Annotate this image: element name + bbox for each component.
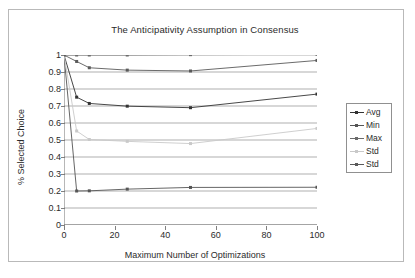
x-tick-label: 40 xyxy=(160,230,170,240)
legend-marker-icon xyxy=(350,134,364,143)
data-point xyxy=(189,69,192,72)
x-tick-label: 0 xyxy=(61,230,66,240)
legend-marker-icon xyxy=(350,160,364,169)
series-min-1 xyxy=(64,55,317,193)
chart-legend: AvgMinMaxStdStd xyxy=(346,103,392,173)
data-point xyxy=(75,60,78,63)
legend-label: Avg xyxy=(366,108,381,117)
x-tick-label: 80 xyxy=(261,230,271,240)
data-point xyxy=(316,127,318,130)
chart-title: The Anticipativity Assumption in Consens… xyxy=(60,24,350,35)
y-tick-label: 0.3 xyxy=(48,169,61,179)
y-tick-label: 0.7 xyxy=(48,101,61,111)
data-point xyxy=(126,105,129,108)
x-tick-mark xyxy=(317,226,318,230)
x-axis-title: Maximum Number of Optimizations xyxy=(60,250,330,260)
legend-marker-icon xyxy=(350,121,364,130)
data-point xyxy=(126,140,129,143)
series-std-4 xyxy=(64,55,317,72)
series-line xyxy=(64,55,317,71)
legend-item-max-2[interactable]: Max xyxy=(347,132,391,145)
data-point xyxy=(316,55,318,56)
y-tick-label: 0.8 xyxy=(48,84,61,94)
data-point xyxy=(316,59,318,62)
chart-page: The Anticipativity Assumption in Consens… xyxy=(0,0,415,278)
data-point xyxy=(75,190,78,193)
data-point xyxy=(189,186,192,189)
data-point xyxy=(88,55,91,57)
y-tick-label: 0.4 xyxy=(48,152,61,162)
data-point xyxy=(64,55,66,57)
plot-svg xyxy=(64,55,317,225)
legend-label: Std xyxy=(366,160,379,169)
legend-marker-icon xyxy=(350,108,364,117)
y-tick-label: 0.5 xyxy=(48,135,61,145)
legend-item-std-4[interactable]: Std xyxy=(347,158,391,171)
plot-area xyxy=(64,55,317,225)
data-point xyxy=(88,102,91,105)
y-tick-label: 0.1 xyxy=(48,203,61,213)
legend-item-avg-0[interactable]: Avg xyxy=(347,106,391,119)
legend-label: Std xyxy=(366,147,379,156)
data-point xyxy=(189,142,192,145)
series-line xyxy=(64,55,317,108)
x-tick-mark xyxy=(165,226,166,230)
y-tick-label: 0.2 xyxy=(48,186,61,196)
legend-item-std-3[interactable]: Std xyxy=(347,145,391,158)
data-point xyxy=(126,69,129,72)
x-tick-mark xyxy=(115,226,116,230)
data-point xyxy=(316,93,318,96)
y-tick-label: 0.9 xyxy=(48,67,61,77)
data-point xyxy=(88,138,91,141)
x-tick-label: 100 xyxy=(309,230,324,240)
data-point xyxy=(75,129,78,132)
data-point xyxy=(126,188,129,191)
x-tick-mark xyxy=(64,226,65,230)
data-point xyxy=(75,96,78,99)
series-avg-0 xyxy=(64,55,317,109)
x-tick-mark xyxy=(266,226,267,230)
x-tick-label: 60 xyxy=(211,230,221,240)
legend-item-min-1[interactable]: Min xyxy=(347,119,391,132)
data-point xyxy=(88,189,91,192)
y-axis-tick-labels: 00.10.20.30.40.50.60.70.80.91 xyxy=(30,55,61,225)
y-axis-title: % Selected Choice xyxy=(16,92,30,202)
data-point xyxy=(75,55,78,57)
x-tick-label: 20 xyxy=(110,230,120,240)
x-axis-tick-labels: 020406080100 xyxy=(64,226,317,242)
data-point xyxy=(189,106,192,109)
legend-label: Max xyxy=(366,134,382,143)
data-point xyxy=(126,55,129,57)
legend-label: Min xyxy=(366,121,380,130)
y-tick-label: 0.6 xyxy=(48,118,61,128)
legend-marker-icon xyxy=(350,147,364,156)
data-point xyxy=(189,55,192,56)
data-point xyxy=(88,66,91,69)
data-point xyxy=(316,186,318,189)
x-tick-mark xyxy=(216,226,217,230)
